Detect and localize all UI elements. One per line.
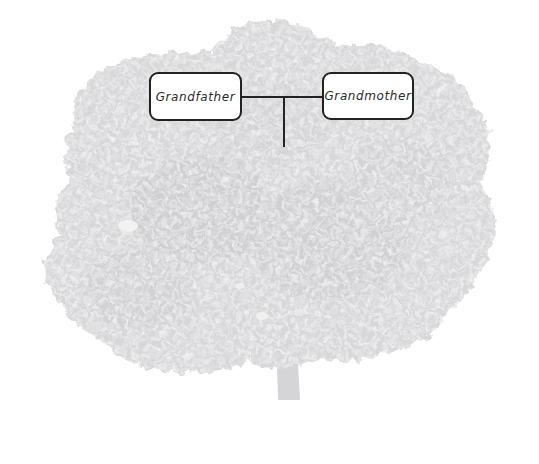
node-grandmother[interactable]: Grandmother (322, 72, 414, 120)
tree-silhouette-background (0, 0, 539, 464)
node-label: Grandfather (156, 90, 236, 104)
marriage-line (242, 96, 322, 98)
node-label: Grandmother (324, 89, 411, 103)
descent-line (283, 97, 285, 147)
node-grandfather[interactable]: Grandfather (149, 72, 242, 121)
